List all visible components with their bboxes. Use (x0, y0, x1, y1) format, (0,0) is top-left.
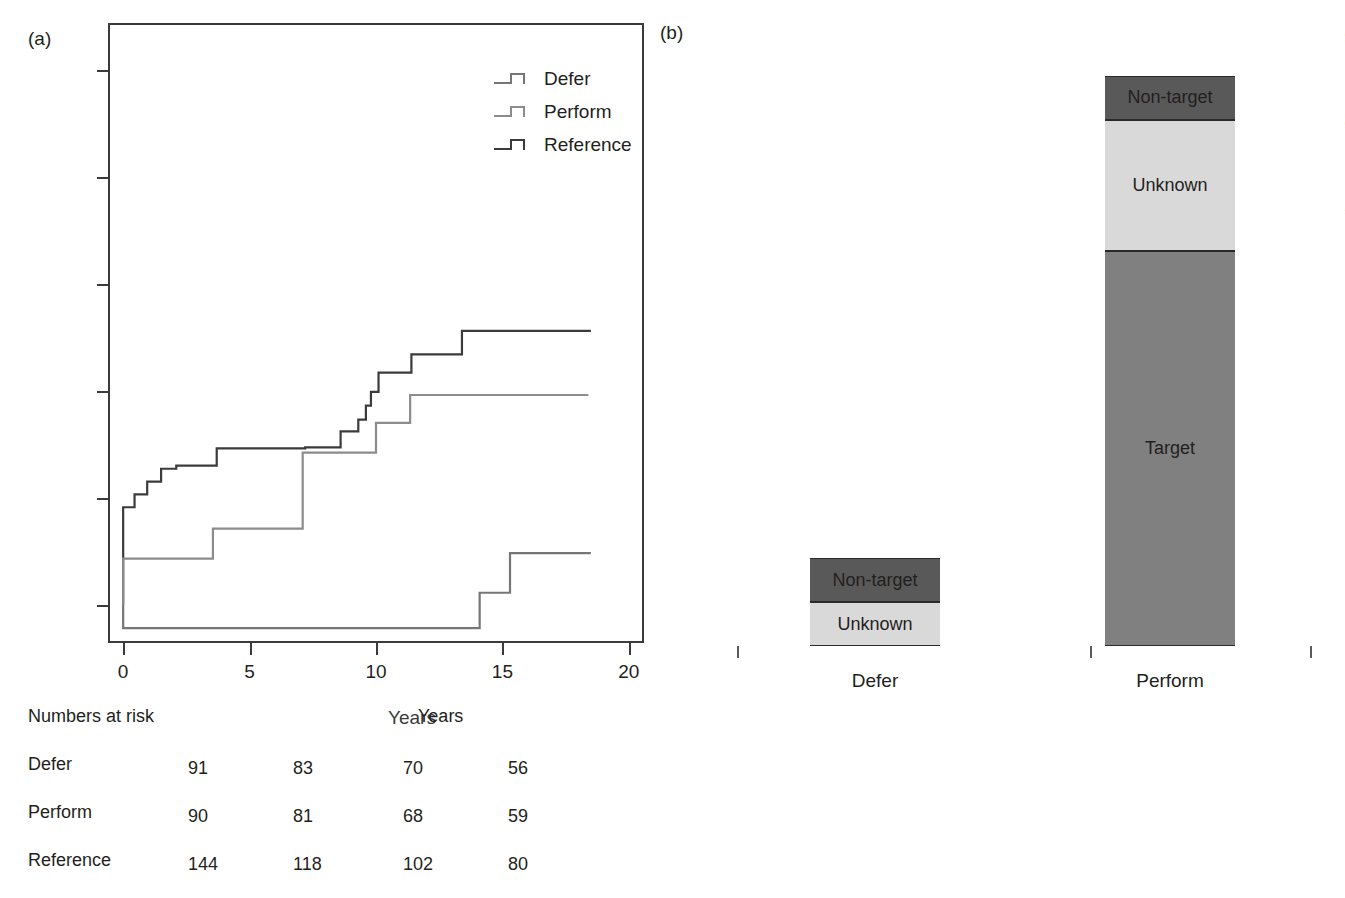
risk-table-cell: 90 (188, 806, 248, 827)
risk-table-cell: 70 (403, 758, 463, 779)
panel-b-xtick-mark (1090, 646, 1092, 658)
panel-b-ytick-label: 6 (1319, 370, 1345, 392)
panel-a-tag: (a) (28, 28, 51, 50)
panel-a-series-perform (123, 395, 588, 605)
legend-item-defer: Defer (494, 62, 632, 95)
bar-segment-label: Unknown (1132, 175, 1207, 196)
legend-label: Perform (544, 101, 612, 123)
bar-segment-label: Non-target (832, 570, 917, 591)
legend-label: Reference (544, 134, 632, 156)
risk-table-row-label: Defer (28, 754, 72, 775)
panel-a-ytick-mark (97, 177, 108, 179)
risk-table-cell: 59 (508, 806, 568, 827)
panel-b-x-axis-endcap (1310, 646, 1312, 658)
risk-table-cell: 144 (188, 854, 248, 875)
panel-b-ytick-label: 14 (1319, 19, 1345, 41)
panel-b-ytick-label: 12 (1319, 107, 1345, 129)
step-line-icon (494, 102, 536, 122)
panel-b-xtick-mark (737, 646, 739, 658)
panel-b-ytick-label: 4 (1319, 458, 1345, 480)
legend-item-reference: Reference (494, 128, 632, 161)
legend-label: Defer (544, 68, 590, 90)
risk-table-cell: 80 (508, 854, 568, 875)
panel-b: (b) Counts 02468101214 UnknownNon-target… (650, 0, 1345, 898)
panel-a-xtick-label: 20 (609, 661, 649, 683)
bar-segment-perform-unknown: Unknown (1105, 120, 1235, 252)
risk-table-cell: 91 (188, 758, 248, 779)
step-line-icon (494, 69, 536, 89)
panel-a-ytick-mark (97, 605, 108, 607)
panel-b-tag: (b) (660, 22, 683, 44)
panel-b-ytick-label: 10 (1319, 194, 1345, 216)
panel-a-xtick-mark (376, 643, 378, 655)
step-line-icon (494, 135, 536, 155)
risk-table-header-row: Numbers at risk Years (28, 706, 668, 754)
panel-a-xtick-mark (629, 643, 631, 655)
panel-a-xtick-mark (123, 643, 125, 655)
panel-b-ytick-label: 2 (1319, 545, 1345, 567)
panel-a-series-defer (123, 553, 591, 628)
panel-b-ytick-label: 8 (1319, 282, 1345, 304)
bar-segment-defer-unknown: Unknown (810, 602, 940, 646)
risk-table-title: Numbers at risk (28, 706, 154, 727)
risk-table-row: Reference14411810280 (28, 850, 668, 898)
panel-b-ytick-label: 0 (1319, 633, 1345, 655)
panel-a-xtick-mark (502, 643, 504, 655)
panel-a-xtick-mark (250, 643, 252, 655)
risk-table-cell: 81 (293, 806, 353, 827)
figure-root: (a) Myocardial infarction (%) 0510152025… (0, 0, 1345, 898)
panel-a-xtick-label: 5 (230, 661, 270, 683)
risk-table-cell: 102 (403, 854, 463, 875)
risk-table-row: Defer91837056 (28, 754, 668, 802)
legend-item-perform: Perform (494, 95, 632, 128)
bar-segment-defer-non-target: Non-target (810, 558, 940, 602)
risk-table-cell: 68 (403, 806, 463, 827)
risk-table-row-label: Perform (28, 802, 92, 823)
bar-segment-label: Target (1145, 438, 1195, 459)
panel-a-xtick-label: 15 (482, 661, 522, 683)
risk-table-cell: 118 (293, 854, 353, 875)
bar-segment-label: Non-target (1127, 87, 1212, 108)
bar-segment-perform-non-target: Non-target (1105, 76, 1235, 120)
panel-a-xtick-label: 0 (103, 661, 143, 683)
panel-a-series-reference (123, 331, 591, 605)
panel-a-legend: DeferPerformReference (494, 62, 632, 161)
bar-segment-perform-target: Target (1105, 251, 1235, 646)
panel-a-xtick-label: 10 (356, 661, 396, 683)
panel-b-category-label-perform: Perform (1090, 670, 1250, 692)
panel-b-category-label-defer: Defer (795, 670, 955, 692)
panel-a-ytick-mark (97, 70, 108, 72)
bar-segment-label: Unknown (837, 614, 912, 635)
panel-a-ytick-mark (97, 391, 108, 393)
risk-table-years-header: Years (418, 706, 463, 727)
panel-a-ytick-mark (97, 498, 108, 500)
risk-table-row-label: Reference (28, 850, 111, 871)
risk-table-cell: 83 (293, 758, 353, 779)
risk-table-cell: 56 (508, 758, 568, 779)
panel-a-ytick-mark (97, 284, 108, 286)
numbers-at-risk-table: Numbers at risk Years Defer91837056Perfo… (28, 706, 668, 898)
risk-table-row: Perform90816859 (28, 802, 668, 850)
